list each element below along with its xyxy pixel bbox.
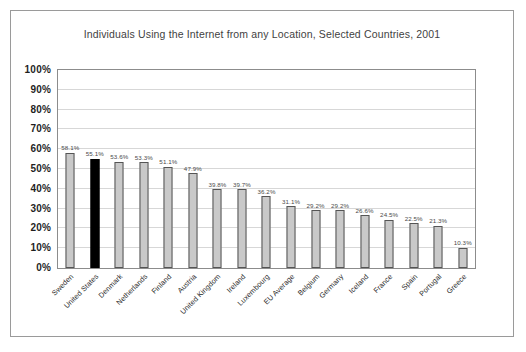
bar-value-label: 53.3% xyxy=(135,154,153,161)
bar[interactable] xyxy=(213,189,222,268)
bar-value-label: 21.3% xyxy=(429,217,447,224)
y-axis-tick-label: 30% xyxy=(30,202,51,213)
y-axis-tick-label: 0% xyxy=(36,262,51,273)
bar[interactable] xyxy=(164,167,173,268)
y-axis-tick-label: 80% xyxy=(30,103,51,114)
x-label-slot: United States xyxy=(83,270,108,336)
bar-value-label: 39.8% xyxy=(208,181,226,188)
bar-value-label: 47.9% xyxy=(184,165,202,172)
bar[interactable] xyxy=(360,215,369,268)
bar[interactable] xyxy=(385,220,394,269)
chart-footnote xyxy=(12,345,512,352)
bar-value-label: 36.2% xyxy=(257,188,275,195)
y-axis-tick-label: 40% xyxy=(30,182,51,193)
bar[interactable] xyxy=(434,226,443,268)
bar-value-label: 22.5% xyxy=(405,215,423,222)
bar[interactable] xyxy=(262,196,271,268)
bar-slot: 36.2% xyxy=(254,70,279,268)
bar[interactable] xyxy=(287,206,296,268)
bar[interactable] xyxy=(115,162,124,268)
bar[interactable] xyxy=(188,173,197,268)
y-axis-tick-label: 10% xyxy=(30,242,51,253)
bar-slot: 22.5% xyxy=(401,70,426,268)
bar-slot: 26.6% xyxy=(352,70,377,268)
y-axis-tick-label: 90% xyxy=(30,83,51,94)
y-axis-tick-label: 50% xyxy=(30,163,51,174)
bar-value-label: 24.5% xyxy=(380,211,398,218)
bar-slot: 24.5% xyxy=(377,70,402,268)
bar-slot: 21.3% xyxy=(426,70,451,268)
y-axis-tick-label: 100% xyxy=(25,64,51,75)
bar-slot: 39.7% xyxy=(230,70,255,268)
bar-value-label: 31.1% xyxy=(282,198,300,205)
x-label-slot: Finland xyxy=(156,270,181,336)
x-axis-labels: SwedenUnited StatesDenmarkNetherlandsFin… xyxy=(58,270,475,336)
y-axis-tick-label: 20% xyxy=(30,222,51,233)
bar[interactable] xyxy=(409,223,418,268)
bar-slot: 53.6% xyxy=(107,70,132,268)
bar-slot: 47.9% xyxy=(181,70,206,268)
bar-slot: 53.3% xyxy=(132,70,157,268)
bar-slot: 58.1% xyxy=(58,70,83,268)
x-label-slot: Greece xyxy=(450,270,475,336)
bar-value-label: 53.6% xyxy=(110,153,128,160)
y-axis-tick-label: 70% xyxy=(30,123,51,134)
bar-slot: 29.2% xyxy=(328,70,353,268)
y-axis-tick-label: 60% xyxy=(30,143,51,154)
bar-slot: 29.2% xyxy=(303,70,328,268)
bar-slot: 31.1% xyxy=(279,70,304,268)
chart-title: Individuals Using the Internet from any … xyxy=(11,28,513,40)
bar[interactable] xyxy=(336,210,345,268)
x-label-slot: Iceland xyxy=(352,270,377,336)
x-axis-category-label: Spain xyxy=(399,272,419,292)
bar-value-label: 39.7% xyxy=(233,181,251,188)
bar-slot: 39.8% xyxy=(205,70,230,268)
bar[interactable] xyxy=(458,248,467,268)
x-label-slot: France xyxy=(377,270,402,336)
bar-value-label: 55.1% xyxy=(86,150,104,157)
bar-value-label: 29.2% xyxy=(307,202,325,209)
bar-value-label: 58.1% xyxy=(61,144,79,151)
bar-slot: 51.1% xyxy=(156,70,181,268)
x-label-slot: Netherlands xyxy=(132,270,157,336)
bar[interactable] xyxy=(237,189,246,268)
x-label-slot: Germany xyxy=(328,270,353,336)
bar-value-label: 10.3% xyxy=(454,239,472,246)
bars-layer: 58.1%55.1%53.6%53.3%51.1%47.9%39.8%39.7%… xyxy=(58,70,475,268)
bar[interactable] xyxy=(311,210,320,268)
x-label-slot: United Kingdom xyxy=(205,270,230,336)
bar-value-label: 29.2% xyxy=(331,202,349,209)
bar-value-label: 26.6% xyxy=(356,207,374,214)
x-label-slot: Portugal xyxy=(426,270,451,336)
y-axis: 0%10%20%30%40%50%60%70%80%90%100% xyxy=(11,69,55,269)
chart-frame: Individuals Using the Internet from any … xyxy=(10,10,514,337)
bar-slot: 55.1% xyxy=(83,70,108,268)
bar[interactable] xyxy=(90,159,99,268)
x-label-slot: EU Average xyxy=(279,270,304,336)
x-label-slot: Spain xyxy=(401,270,426,336)
bar[interactable] xyxy=(139,162,148,268)
bar-slot: 10.3% xyxy=(450,70,475,268)
bar-value-label: 51.1% xyxy=(159,158,177,165)
x-label-slot: Belgium xyxy=(303,270,328,336)
bar[interactable] xyxy=(66,153,75,268)
